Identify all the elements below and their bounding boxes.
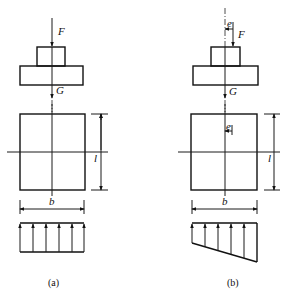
panel-b: e F G e l b bbox=[178, 8, 280, 289]
ecc-label-top-b: e bbox=[227, 17, 232, 29]
force-label-a: F bbox=[57, 25, 65, 37]
caption-a: (a) bbox=[48, 277, 59, 289]
caption-b: (b) bbox=[227, 277, 239, 289]
width-label-b: b bbox=[222, 195, 228, 207]
length-label-b: l bbox=[268, 152, 271, 164]
ecc-label-plan-b: e bbox=[226, 120, 231, 132]
panel-a: F G l b bbox=[7, 18, 108, 289]
force-label-b: F bbox=[237, 28, 245, 40]
weight-label-a: G bbox=[56, 84, 64, 96]
foundation-pressure-diagram: F G l b bbox=[0, 0, 286, 298]
weight-label-b: G bbox=[229, 85, 237, 97]
pressure-arrows-a bbox=[20, 224, 84, 252]
pressure-bottom-b bbox=[192, 243, 257, 262]
column-block-a bbox=[37, 47, 65, 66]
pressure-arrows-b bbox=[192, 224, 244, 258]
width-label-a: b bbox=[49, 195, 55, 207]
length-label-a: l bbox=[94, 152, 97, 164]
